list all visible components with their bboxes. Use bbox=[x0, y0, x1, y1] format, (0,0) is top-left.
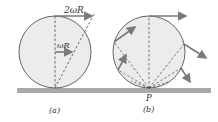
ground-surface bbox=[17, 88, 211, 93]
panel-b: P (b) bbox=[113, 16, 206, 114]
panel-a: 2ωR ωR (a) bbox=[19, 5, 94, 115]
rolling-wheel-diagram: 2ωR ωR (a) P (b) bbox=[0, 0, 218, 122]
contact-point-label: P bbox=[145, 93, 152, 103]
center-velocity-label: ωR bbox=[57, 41, 70, 50]
top-velocity-label: 2ωR bbox=[63, 5, 84, 15]
caption-b: (b) bbox=[143, 105, 154, 114]
caption-a: (a) bbox=[49, 106, 60, 115]
